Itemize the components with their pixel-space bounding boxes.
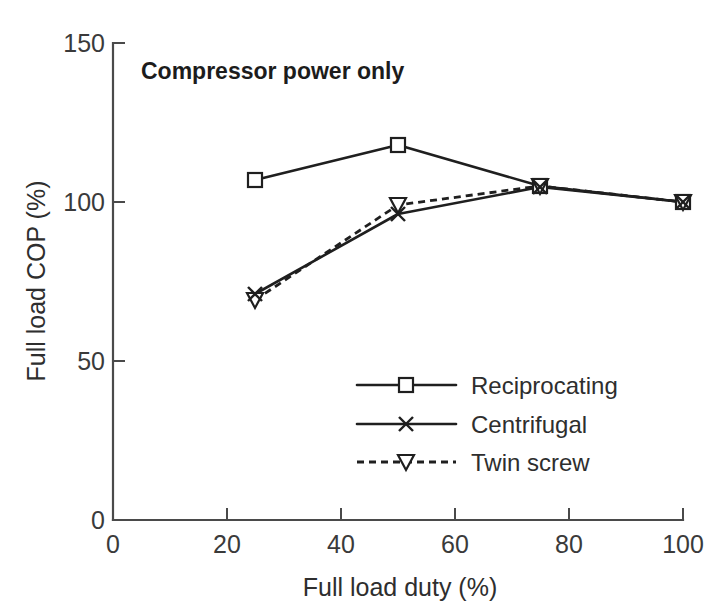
x-tick-label-40: 40 xyxy=(327,530,355,558)
axes-group xyxy=(113,43,683,520)
legend-item-centrifugal[interactable]: Centrifugal xyxy=(357,411,587,438)
y-tick-label-100: 100 xyxy=(63,188,105,216)
data-point-twin-screw-50 xyxy=(390,198,406,213)
series-line-reciprocating xyxy=(255,145,683,202)
x-ticks-group xyxy=(113,508,683,520)
y-tick-labels-group: 150 100 50 0 xyxy=(63,29,105,534)
x-tick-label-80: 80 xyxy=(555,530,583,558)
x-tick-label-100: 100 xyxy=(662,530,704,558)
legend-item-reciprocating[interactable]: Reciprocating xyxy=(357,372,618,399)
x-tick-labels-group: 0 20 40 60 80 100 xyxy=(106,530,704,558)
legend-marker-square-icon xyxy=(399,378,413,392)
markers-reciprocating xyxy=(248,138,690,209)
y-tick-label-0: 0 xyxy=(91,506,105,534)
x-tick-label-0: 0 xyxy=(106,530,120,558)
y-tick-label-50: 50 xyxy=(77,347,105,375)
plot-title: Compressor power only xyxy=(141,58,404,84)
legend-label-twin-screw: Twin screw xyxy=(471,449,590,476)
legend: Reciprocating Centrifugal Twin screw xyxy=(357,372,618,476)
series-line-twin-screw xyxy=(255,186,683,300)
legend-label-centrifugal: Centrifugal xyxy=(471,411,587,438)
y-ticks-group xyxy=(113,43,125,520)
line-chart: 150 100 50 0 0 20 40 60 80 100 Full load… xyxy=(0,0,726,613)
chart-figure: 150 100 50 0 0 20 40 60 80 100 Full load… xyxy=(0,0,726,613)
y-axis-title: Full load COP (%) xyxy=(22,181,50,382)
markers-centrifugal xyxy=(248,180,690,301)
series-lines-group xyxy=(255,145,683,300)
legend-item-twin-screw[interactable]: Twin screw xyxy=(357,449,590,476)
x-tick-label-60: 60 xyxy=(441,530,469,558)
y-tick-label-150: 150 xyxy=(63,29,105,57)
series-line-centrifugal xyxy=(255,187,683,294)
x-axis-title: Full load duty (%) xyxy=(303,573,498,601)
x-tick-label-20: 20 xyxy=(213,530,241,558)
legend-label-reciprocating: Reciprocating xyxy=(471,372,618,399)
markers-twin-screw xyxy=(247,179,691,308)
data-point-reciprocating-25 xyxy=(248,173,262,187)
data-point-reciprocating-50 xyxy=(391,138,405,152)
